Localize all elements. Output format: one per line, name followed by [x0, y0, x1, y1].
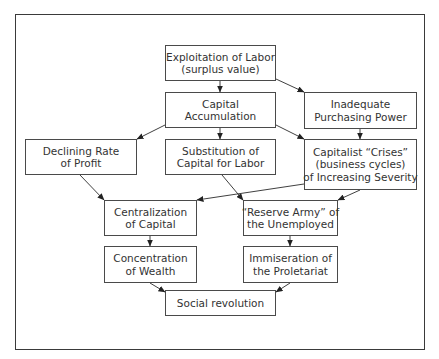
node-label-line: (business cycles) — [316, 158, 406, 171]
node-label-line: Centralization — [114, 206, 187, 219]
node-label-line: Declining Rate — [43, 145, 119, 158]
node-label-line: (surplus value) — [181, 63, 259, 76]
edge-substitution-to-reserve-army — [222, 175, 243, 200]
node-label-line: of Capital — [125, 218, 175, 231]
edge-immiseration-to-social-revolution — [276, 283, 290, 292]
node-label-line: Social revolution — [177, 297, 264, 310]
node-label-line: the Proletariat — [253, 265, 328, 278]
node-inadequate-purchasing-power: Inadequate Purchasing Power — [304, 92, 417, 129]
node-label-line: the Unemployed — [247, 218, 334, 231]
node-capital-accumulation: Capital Accumulation — [165, 92, 276, 128]
edge-exploitation-to-inadequate-purchasing — [276, 79, 304, 92]
node-label-line: Concentration — [113, 252, 187, 265]
node-social-revolution: Social revolution — [165, 290, 276, 316]
node-label-line: Immiseration of — [249, 252, 332, 265]
edge-crises-to-reserve-army — [338, 190, 360, 200]
edge-capital-accumulation-to-declining-rate — [137, 125, 165, 139]
node-label-line: of Profit — [61, 157, 102, 170]
node-concentration-of-wealth: Concentration of Wealth — [104, 246, 197, 283]
node-immiseration-of-proletariat: Immiseration of the Proletariat — [243, 246, 338, 283]
node-reserve-army-of-unemployed: “Reserve Army” of the Unemployed — [243, 200, 338, 236]
node-declining-rate-of-profit: Declining Rate of Profit — [25, 139, 137, 175]
node-capitalist-crises: Capitalist “Crises” (business cycles) of… — [304, 139, 417, 190]
node-label-line: Purchasing Power — [314, 111, 407, 124]
node-label-line: Accumulation — [185, 110, 257, 123]
node-label-line: Capital — [202, 98, 239, 111]
node-substitution-of-capital-for-labor: Substitution of Capital for Labor — [165, 139, 276, 175]
node-label-line: “Reserve Army” of — [242, 206, 339, 219]
node-centralization-of-capital: Centralization of Capital — [104, 200, 197, 236]
node-label-line: Capitalist “Crises” — [313, 146, 408, 159]
node-label-line: of Increasing Severity — [303, 171, 417, 184]
edge-crises-to-centralization — [197, 184, 304, 200]
edge-capital-accumulation-to-crises — [276, 125, 304, 139]
node-label-line: Capital for Labor — [177, 157, 265, 170]
edge-declining-rate-to-centralization — [80, 175, 104, 200]
node-label-line: Substitution of — [182, 145, 259, 158]
node-exploitation-of-labor: Exploitation of Labor (surplus value) — [165, 45, 276, 81]
node-label-line: Inadequate — [331, 98, 391, 111]
node-label-line: Exploitation of Labor — [166, 51, 275, 64]
node-label-line: of Wealth — [126, 265, 176, 278]
edge-concentration-to-social-revolution — [150, 283, 165, 292]
